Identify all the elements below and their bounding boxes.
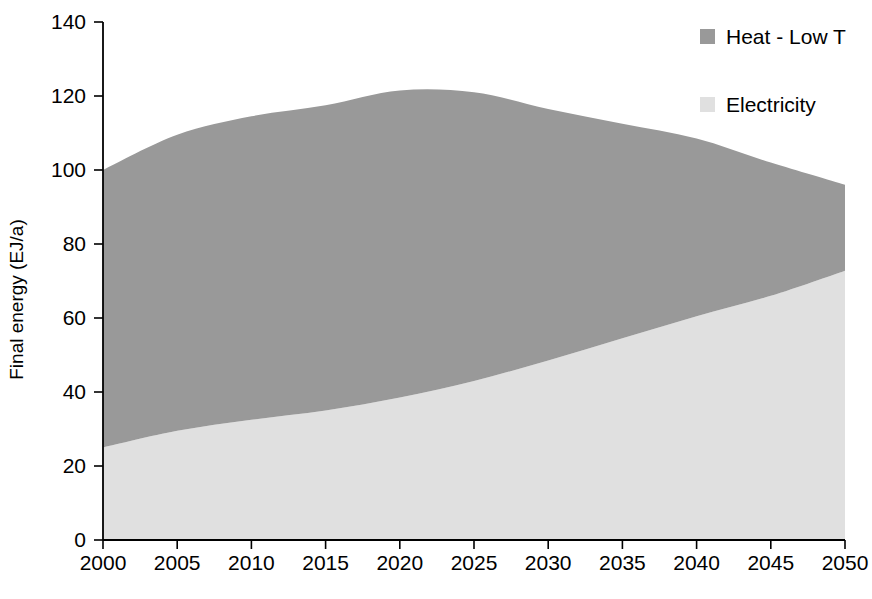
y-tick-label: 120 <box>26 85 86 106</box>
y-tick-label: 0 <box>26 529 86 550</box>
legend-swatch-icon <box>700 97 715 112</box>
x-tick-label: 2050 <box>800 552 872 573</box>
y-tick-label: 40 <box>26 381 86 402</box>
y-tick-label: 20 <box>26 455 86 476</box>
stacked-area-chart: Final energy (EJ/a) 140120100806040200 2… <box>0 0 872 599</box>
area-series-group <box>103 89 845 540</box>
legend-item-heat-low-t[interactable]: Heat - Low T <box>700 26 846 47</box>
y-tick-label: 100 <box>26 159 86 180</box>
legend-swatch-icon <box>700 29 715 44</box>
y-tick-label: 80 <box>26 233 86 254</box>
y-tick-label: 60 <box>26 307 86 328</box>
plot-canvas <box>0 0 872 599</box>
legend-item-electricity[interactable]: Electricity <box>700 94 816 115</box>
legend-label: Electricity <box>726 94 816 115</box>
legend-label: Heat - Low T <box>726 26 846 47</box>
y-tick-label: 140 <box>26 11 86 32</box>
